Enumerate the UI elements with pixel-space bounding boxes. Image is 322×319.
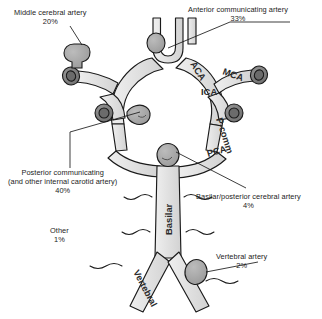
label-basilar: Basilar [163,203,174,235]
callout-vertebral-percent: 2% [216,261,267,270]
callout-basilar-percent: 4% [196,201,301,210]
cut-mark-vertebral-left [90,264,122,269]
callout-anterior-communicating-artery: Anterior communicating artery 33% [188,5,288,23]
callout-pcomm-percent: 40% [8,186,117,195]
callout-mca-percent: 20% [14,17,87,26]
stump-right-ica [225,104,243,122]
aneurysm-acomm [147,33,165,53]
callout-other-percent: 1% [50,235,69,244]
callout-pcomm-name: Posterior communicating [21,168,103,177]
callout-acomm-percent: 33% [188,14,288,23]
cut-mark-basilar-left [122,230,150,235]
callout-acomm-name: Anterior communicating artery [188,5,288,14]
callout-basilar-posterior-cerebral-artery: Basilar/posterior cerebral artery 4% [196,192,301,210]
left-ica-mca-limb [76,71,118,94]
cut-mark-vertebral-right [206,279,238,284]
left-pcomm [112,124,127,151]
callout-middle-cerebral-artery: Middle cerebral artery 20% [14,8,87,26]
circle-of-willis-diagram: ACA MCA ICA P-comm PCA Basilar Vertebral… [0,0,322,319]
stump-right-mca [248,64,270,86]
callout-other: Other 1% [50,226,69,244]
callout-other-name: Other [50,226,69,235]
callout-basilar-name: Basilar/posterior cerebral artery [196,192,301,201]
callout-posterior-communicating: Posterior communicating (and other inter… [8,168,117,196]
stump-left-ica [95,104,113,122]
callout-mca-name: Middle cerebral artery [14,8,87,17]
vessel-illustration: ACA MCA ICA P-comm PCA Basilar Vertebral [0,0,322,319]
callout-vertebral-artery: Vertebral artery 2% [216,252,267,270]
aneurysm-mca-left [64,44,90,68]
cut-mark-basilar-right [186,230,214,235]
leader-mca [70,26,82,45]
cut-mark-pcomm-left [124,195,152,200]
callout-vertebral-name: Vertebral artery [216,252,267,261]
label-ica: ICA [201,86,217,97]
aneurysm-basilar-tip [157,144,179,167]
leader-acomm [168,22,290,48]
callout-pcomm-name2: (and other internal carotid artery) [8,177,117,186]
